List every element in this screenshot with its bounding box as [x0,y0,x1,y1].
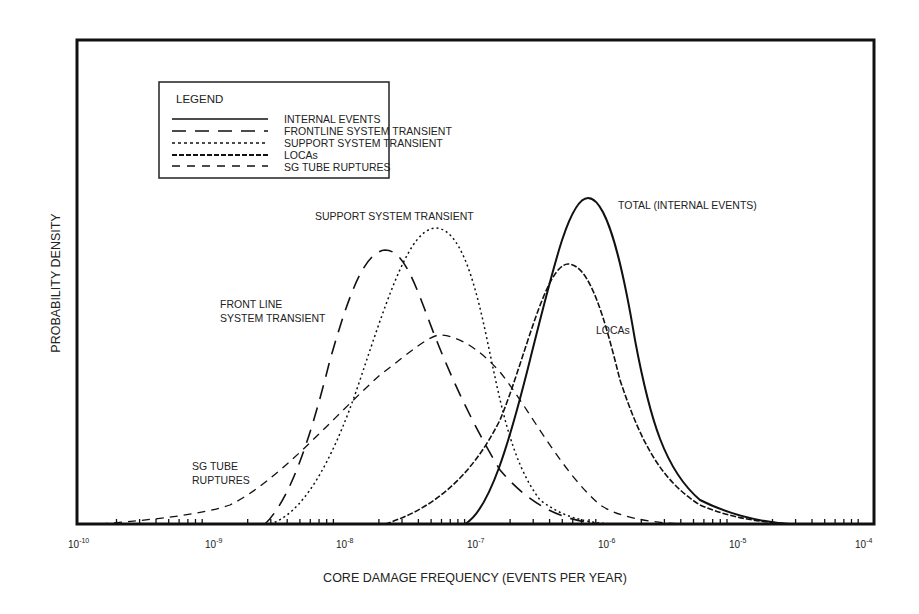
x-tick-labels: 10-10 10-9 10-8 10-7 10-6 10-5 10-4 [68,537,872,550]
svg-text:10-4: 10-4 [855,537,872,550]
chart: LEGEND INTERNAL EVENTS FRONTLINE SYSTEM … [0,0,919,614]
label-sg-1: SG TUBE [192,460,238,472]
svg-text:10-8: 10-8 [336,537,353,550]
svg-text:10-5: 10-5 [729,537,746,550]
legend: LEGEND INTERNAL EVENTS FRONTLINE SYSTEM … [159,82,452,178]
legend-title: LEGEND [176,93,223,105]
label-support: SUPPORT SYSTEM TRANSIENT [315,210,474,222]
series-locas [385,264,790,524]
legend-item-internal-events: INTERNAL EVENTS [284,113,380,125]
x-axis-label: CORE DAMAGE FREQUENCY (EVENTS PER YEAR) [323,571,627,585]
legend-item-frontline: FRONTLINE SYSTEM TRANSIENT [284,125,452,137]
legend-item-sg-tube: SG TUBE RUPTURES [284,161,391,173]
label-frontline-2: SYSTEM TRANSIENT [220,312,326,324]
svg-text:10-10: 10-10 [68,537,89,550]
series-sg-tube-ruptures [100,335,680,524]
label-sg-2: RUPTURES [192,474,250,486]
series-internal-events [465,198,790,524]
legend-item-support: SUPPORT SYSTEM TRANSIENT [284,137,443,149]
y-axis-label: PROBABILITY DENSITY [49,213,63,353]
legend-item-locas: LOCAs [284,149,318,161]
label-total: TOTAL (INTERNAL EVENTS) [618,199,757,211]
svg-text:10-9: 10-9 [205,537,222,550]
series-frontline-transient [265,250,600,524]
series-support-transient [270,228,610,524]
svg-text:10-7: 10-7 [467,537,484,550]
label-locas: LOCAs [596,324,630,336]
svg-text:10-6: 10-6 [598,537,615,550]
label-frontline-1: FRONT LINE [220,298,282,310]
